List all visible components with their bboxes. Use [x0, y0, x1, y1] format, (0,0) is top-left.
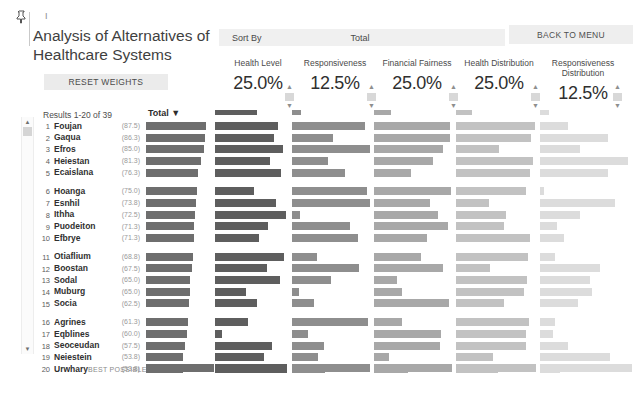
list-item[interactable]: 6Hoanga(75.0) [36, 185, 140, 197]
scrollbar-thumb[interactable] [23, 127, 32, 136]
list-item[interactable]: 1Foujan(87.5) [36, 120, 140, 132]
list-item[interactable]: 5Ecaislana(76.3) [36, 167, 140, 179]
list-item[interactable]: 10Efbrye(71.3) [36, 232, 140, 244]
list-item[interactable]: 18Seoceudan(57.5) [36, 340, 140, 352]
list-item[interactable]: 15Socia(62.5) [36, 298, 140, 310]
bar [292, 145, 370, 153]
spinner-down-arrow[interactable]: ▼ [532, 103, 539, 109]
spinner-down-arrow[interactable]: ▼ [286, 103, 293, 109]
bar-row [540, 286, 632, 298]
spinner-up-arrow[interactable]: ▲ [614, 84, 621, 90]
bar [540, 342, 568, 350]
bar-row [456, 143, 536, 155]
list-item[interactable]: 11Otiaflium(68.8) [36, 251, 140, 263]
list-item-name: Otiaflium [54, 251, 91, 261]
criteria-weight-value[interactable]: 12.5% [546, 83, 620, 104]
list-item-score: (53.8) [122, 353, 140, 360]
criteria-weight-spinner-1[interactable]: ▲▼ [285, 84, 294, 109]
bar [215, 318, 248, 326]
criteria-weight-value[interactable]: 25.0% [462, 73, 536, 94]
list-item-score: (65.0) [122, 288, 140, 295]
bar [292, 122, 365, 130]
bar [374, 353, 389, 361]
bar-row [456, 185, 536, 197]
list-item[interactable]: 2Gaqua(86.3) [36, 132, 140, 144]
bar [456, 288, 524, 296]
list-item-rank: 5 [36, 169, 50, 178]
list-item[interactable]: 19Neiestein(53.8) [36, 351, 140, 363]
list-item[interactable]: 7Esnhil(73.8) [36, 197, 140, 209]
bar-row [146, 298, 214, 310]
bar-row [292, 340, 370, 352]
criteria-weight-value[interactable]: 25.0% [380, 73, 454, 94]
bar-row [146, 221, 214, 233]
list-item-score: (71.3) [122, 234, 140, 241]
list-item[interactable]: 12Boostan(67.5) [36, 263, 140, 275]
bar-row [146, 232, 214, 244]
list-item-name: Gaqua [54, 132, 80, 142]
criteria-weight-value[interactable]: 25.0% [221, 73, 295, 94]
spinner-down-arrow[interactable]: ▼ [368, 103, 375, 109]
criteria-name-label: Responsiveness [298, 58, 372, 68]
bar-row [456, 340, 536, 352]
bar [146, 145, 204, 153]
bar-row [540, 298, 632, 310]
list-item[interactable]: 17Eqblines(60.0) [36, 328, 140, 340]
spinner-track[interactable] [531, 93, 540, 101]
bar [215, 299, 257, 307]
list-item[interactable]: 13Sodal(65.0) [36, 274, 140, 286]
bar [374, 234, 427, 242]
spinner-up-arrow[interactable]: ▲ [532, 84, 539, 90]
list-item-score: (72.5) [122, 211, 140, 218]
list-item[interactable]: 9Puodeiton(71.3) [36, 221, 140, 233]
spinner-track[interactable] [613, 93, 622, 101]
spinner-track[interactable] [449, 93, 458, 101]
bar-row [215, 197, 287, 209]
spinner-track[interactable] [367, 93, 376, 101]
list-item[interactable]: 16Agrines(61.3) [36, 316, 140, 328]
criteria-weight-spinner-5[interactable]: ▲▼ [613, 84, 622, 109]
list-item-rank: 10 [36, 234, 50, 243]
bar [146, 199, 196, 207]
bar [540, 264, 600, 272]
criteria-weight-spinner-4[interactable]: ▲▼ [531, 84, 540, 109]
bar-row [292, 286, 370, 298]
bar [292, 299, 314, 307]
spinner-down-arrow[interactable]: ▼ [614, 103, 621, 109]
bar [146, 169, 198, 177]
list-item-name: Agrines [54, 317, 86, 327]
reset-weights-button[interactable]: RESET WEIGHTS [44, 74, 168, 90]
scroll-down-arrow[interactable]: ▼ [22, 345, 33, 353]
bar [456, 264, 490, 272]
list-item[interactable]: 4Heiestan(81.3) [36, 155, 140, 167]
spinner-up-arrow[interactable]: ▲ [368, 84, 375, 90]
criteria-name-label: Health Level [221, 58, 295, 68]
spinner-up-arrow[interactable]: ▲ [286, 84, 293, 90]
bar-row [292, 232, 370, 244]
list-item-score: (81.3) [122, 157, 140, 164]
total-column-header[interactable]: Total ▼ [148, 108, 180, 118]
spinner-track[interactable] [285, 93, 294, 101]
scroll-up-arrow[interactable]: ▲ [22, 118, 33, 126]
list-item[interactable]: 3Efros(85.0) [36, 143, 140, 155]
criteria-weight-spinner-2[interactable]: ▲▼ [367, 84, 376, 109]
bar [456, 122, 535, 130]
criteria-weight-value[interactable]: 12.5% [298, 73, 372, 94]
bar [292, 353, 318, 361]
bar-row [146, 167, 214, 179]
criteria-weight-spinner-3[interactable]: ▲▼ [449, 84, 458, 109]
sort-by-value[interactable]: Total [330, 33, 390, 43]
spinner-down-arrow[interactable]: ▼ [450, 103, 457, 109]
list-item[interactable]: 8Ithha(72.5) [36, 209, 140, 221]
results-scrollbar[interactable]: ▲ ▼ [21, 117, 34, 354]
pin-icon[interactable] [15, 10, 28, 24]
bar [292, 199, 370, 207]
spinner-up-arrow[interactable]: ▲ [450, 84, 457, 90]
bar-row [215, 298, 287, 310]
list-item[interactable]: 14Muburg(65.0) [36, 286, 140, 298]
bar [292, 264, 359, 272]
bar-row [215, 328, 287, 340]
bar-row [374, 143, 452, 155]
criteria-column-2: Responsiveness12.5% [298, 58, 372, 94]
bar [456, 211, 506, 219]
